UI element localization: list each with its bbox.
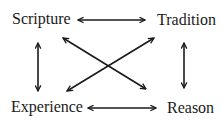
node-tradition: Tradition xyxy=(157,12,216,28)
arrow-scripture-reason xyxy=(63,38,146,89)
node-experience: Experience xyxy=(11,99,83,115)
node-reason: Reason xyxy=(167,100,214,116)
quadrilateral-diagram: Scripture Tradition Experience Reason xyxy=(0,0,223,126)
arrow-experience-tradition xyxy=(67,38,154,91)
node-scripture: Scripture xyxy=(12,11,71,27)
